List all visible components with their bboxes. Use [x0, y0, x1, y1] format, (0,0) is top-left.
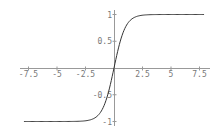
y-tick-label: -1 [102, 118, 112, 127]
axes [20, 10, 210, 126]
tanh-plot: -7.5-5-2.52.557.5-1-0.50.51 [0, 0, 221, 136]
x-tick-label: 2.5 [135, 70, 150, 79]
y-tick-label: -0.5 [93, 91, 112, 100]
x-tick-label: -2.5 [76, 70, 95, 79]
x-tick-label: 5 [169, 70, 174, 79]
x-tick-label: -5 [52, 70, 62, 79]
x-tick-label: -7.5 [19, 70, 38, 79]
y-tick-label: 0.5 [98, 37, 113, 46]
y-tick-label: 1 [107, 11, 112, 20]
x-tick-label: 7.5 [192, 70, 207, 79]
